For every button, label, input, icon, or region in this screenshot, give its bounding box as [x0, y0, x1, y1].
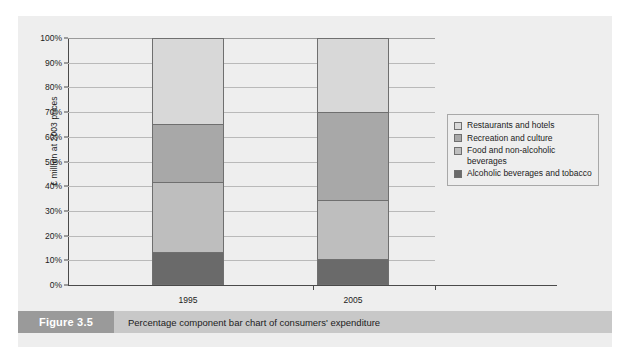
- x-tick-mark-1: [435, 285, 436, 290]
- legend-swatch-restaurants-and-hotels: [454, 122, 462, 130]
- legend-item[interactable]: Restaurants and hotels: [454, 120, 592, 131]
- y-tick-label-60%: 60%: [45, 132, 62, 142]
- y-tick-label-50%: 50%: [45, 157, 62, 167]
- legend-item-label: Restaurants and hotels: [467, 120, 554, 131]
- legend-item[interactable]: Alcoholic beverages and tobacco: [454, 168, 592, 179]
- bar-1995[interactable]: [152, 38, 224, 285]
- legend-item[interactable]: Food and non-alcoholic beverages: [454, 145, 592, 166]
- figure-number-tag: Figure 3.5: [18, 311, 114, 333]
- y-tick-label-20%: 20%: [45, 231, 62, 241]
- figure-caption-bar: Figure 3.5 Percentage component bar char…: [18, 311, 612, 333]
- legend-item-label: Food and non-alcoholic beverages: [467, 145, 592, 166]
- legend-item[interactable]: Recreation and culture: [454, 133, 592, 144]
- bar-segment-2005-food-and-non-alcoholic-beverages[interactable]: [317, 200, 389, 259]
- legend-swatch-food-and-non-alcoholic-beverages: [454, 147, 462, 155]
- bar-segment-1995-recreation-and-culture[interactable]: [152, 124, 224, 182]
- x-tick-label-2005: 2005: [344, 295, 363, 305]
- legend-item-label: Alcoholic beverages and tobacco: [467, 168, 592, 179]
- chart-legend: Restaurants and hotelsRecreation and cul…: [447, 114, 599, 186]
- legend-swatch-alcoholic-beverages-and-tobacco: [454, 170, 462, 178]
- y-tick-label-30%: 30%: [45, 206, 62, 216]
- bar-segment-1995-restaurants-and-hotels[interactable]: [152, 38, 224, 124]
- bar-segment-2005-recreation-and-culture[interactable]: [317, 112, 389, 200]
- y-tick-label-80%: 80%: [45, 82, 62, 92]
- bar-segment-1995-alcoholic-beverages-and-tobacco[interactable]: [152, 252, 224, 285]
- y-tick-label-100%: 100%: [40, 33, 62, 43]
- y-tick-mark-30%: [64, 210, 68, 211]
- x-tick-label-1995: 1995: [179, 295, 198, 305]
- x-tick-mark-0: [313, 285, 314, 290]
- y-tick-label-0%: 0%: [50, 280, 62, 290]
- figure-page: £ million at 2003 prices 0%10%20%30%40%5…: [0, 0, 629, 363]
- y-tick-mark-90%: [64, 62, 68, 63]
- y-tick-mark-60%: [64, 136, 68, 137]
- y-tick-mark-40%: [64, 186, 68, 187]
- y-tick-mark-20%: [64, 235, 68, 236]
- bar-2005[interactable]: [317, 38, 389, 285]
- bar-segment-2005-alcoholic-beverages-and-tobacco[interactable]: [317, 259, 389, 285]
- y-tick-label-40%: 40%: [45, 181, 62, 191]
- y-tick-label-90%: 90%: [45, 58, 62, 68]
- legend-item-label: Recreation and culture: [467, 133, 553, 144]
- y-tick-mark-50%: [64, 161, 68, 162]
- legend-swatch-recreation-and-culture: [454, 134, 462, 142]
- plot-area: 0%10%20%30%40%50%60%70%80%90%100% 199520…: [68, 38, 435, 285]
- y-tick-mark-100%: [64, 38, 68, 39]
- bar-segment-2005-restaurants-and-hotels[interactable]: [317, 38, 389, 112]
- bar-segment-1995-food-and-non-alcoholic-beverages[interactable]: [152, 182, 224, 251]
- y-tick-mark-80%: [64, 87, 68, 88]
- y-tick-label-70%: 70%: [45, 107, 62, 117]
- y-tick-mark-0%: [64, 285, 68, 286]
- x-axis-line-extension: [435, 285, 557, 287]
- y-tick-mark-70%: [64, 112, 68, 113]
- y-tick-mark-10%: [64, 260, 68, 261]
- figure-caption-text: Percentage component bar chart of consum…: [114, 311, 612, 333]
- y-tick-label-10%: 10%: [45, 255, 62, 265]
